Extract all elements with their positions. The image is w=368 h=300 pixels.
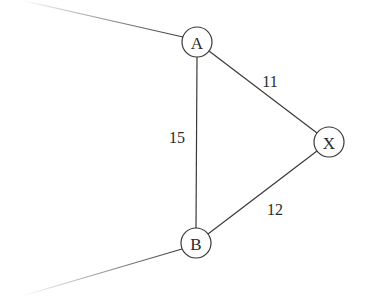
- edge-b-x: [208, 151, 317, 234]
- node-label-x: X: [323, 134, 335, 153]
- edge-a-x: [209, 51, 317, 133]
- edge-label-a-x: 11: [262, 73, 277, 90]
- node-label-b: B: [190, 235, 201, 254]
- node-x: X: [314, 127, 344, 157]
- edge-label-a-b: 15: [169, 129, 185, 146]
- graph-diagram: 11 15 12 A X B: [0, 0, 368, 300]
- node-a: A: [182, 27, 212, 57]
- edge-label-b-x: 12: [267, 201, 283, 218]
- node-label-a: A: [191, 34, 204, 53]
- dangling-edge-b: [22, 249, 182, 296]
- edge-a-b: [196, 57, 197, 228]
- node-b: B: [181, 228, 211, 258]
- dangling-edge-a: [20, 0, 183, 37]
